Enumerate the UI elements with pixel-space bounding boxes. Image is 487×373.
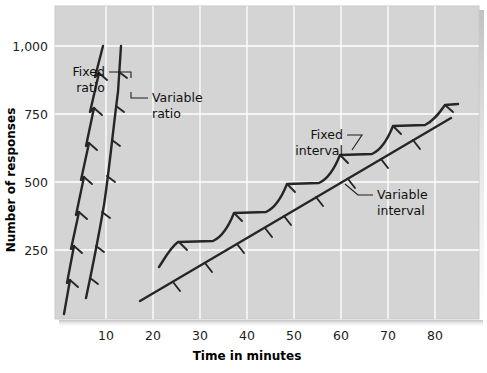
xtick-label-50: 50 bbox=[286, 328, 302, 343]
xtick-label-70: 70 bbox=[380, 328, 396, 343]
annotation-fixed-ratio-line1: Fixed bbox=[73, 64, 105, 79]
annotation-variable-ratio-line2: ratio bbox=[152, 106, 181, 121]
annotation-variable-interval-line1: Variable bbox=[377, 187, 428, 202]
annotation-variable-interval-line2: interval bbox=[377, 203, 425, 218]
xtick-label-80: 80 bbox=[427, 328, 443, 343]
xtick-label-60: 60 bbox=[333, 328, 349, 343]
y-axis-title: Number of responses bbox=[4, 108, 18, 253]
xtick-label-40: 40 bbox=[239, 328, 255, 343]
xtick-label-20: 20 bbox=[145, 328, 161, 343]
ytick-label-250: 250 bbox=[24, 243, 48, 258]
annotation-fixed-ratio-line2: ratio bbox=[76, 80, 105, 95]
ytick-label-750: 750 bbox=[24, 107, 48, 122]
ytick-label-1000: 1,000 bbox=[12, 39, 48, 54]
annotation-variable-ratio-line1: Variable bbox=[152, 90, 203, 105]
plot-shadow bbox=[59, 320, 483, 326]
chart-svg: 1,000 750 500 250 Number of responses 10… bbox=[0, 0, 487, 373]
plot-area bbox=[55, 6, 479, 319]
x-axis-title: Time in minutes bbox=[193, 349, 302, 363]
annotation-fixed-interval-line1: Fixed bbox=[311, 127, 343, 142]
xtick-label-30: 30 bbox=[192, 328, 208, 343]
ytick-label-500: 500 bbox=[24, 175, 48, 190]
xtick-label-10: 10 bbox=[98, 328, 114, 343]
cumulative-response-chart: 1,000 750 500 250 Number of responses 10… bbox=[0, 0, 487, 373]
annotation-fixed-interval-line2: interval bbox=[295, 143, 343, 158]
